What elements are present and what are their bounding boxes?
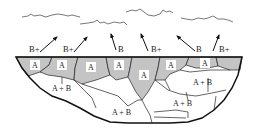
grain-label: A + B: [173, 99, 192, 108]
grain-label: A: [141, 71, 147, 80]
wave-line: [80, 20, 127, 25]
arrow-label: B+: [29, 44, 40, 54]
wave-line: [22, 14, 80, 17]
grain-label: A: [116, 61, 122, 70]
arrow-label: B+: [63, 44, 74, 54]
wave-line: [181, 16, 233, 22]
grain-label: A: [59, 61, 65, 70]
arrow-label: B+: [219, 44, 230, 54]
grain-label: A + B: [193, 78, 212, 87]
arrow-icon: [74, 37, 87, 52]
arrow-icon: [141, 34, 148, 51]
grain-label: A: [88, 63, 94, 72]
release-arrows: B+ B+ B B+ B B+: [29, 34, 230, 54]
arrow-icon: [111, 34, 116, 50]
grain-label: A + B: [112, 108, 131, 117]
arrow-icon: [177, 36, 195, 51]
wave-line: [126, 9, 173, 16]
arrow-icon: [40, 37, 57, 52]
grain-label: A: [168, 61, 174, 70]
grain-label: A + B: [52, 84, 71, 93]
grain-label: A: [202, 59, 208, 68]
arrow-label: B: [196, 44, 202, 54]
environment-waves: [22, 9, 233, 25]
arrow-label: B+: [151, 44, 162, 54]
grain-diagram: B+ B+ B B+ B B+: [0, 0, 255, 136]
grain-label: A: [32, 61, 38, 70]
arrow-label: B: [118, 44, 124, 54]
